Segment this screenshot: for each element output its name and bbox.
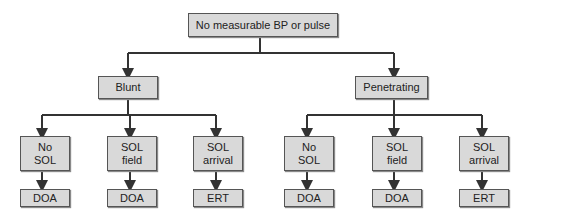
outcome-label: ERT: [207, 192, 229, 205]
node-line1: No: [38, 141, 52, 154]
node-line1: SOL: [386, 141, 408, 154]
outcome-label: ERT: [473, 192, 495, 205]
outcome-blunt-no-sol: DOA: [20, 189, 70, 207]
outcome-blunt-sol-arrival: ERT: [193, 189, 243, 207]
outcome-penetrating-no-sol: DOA: [284, 189, 334, 207]
penetrating-sol-field-node: SOL field: [372, 136, 422, 171]
branch-penetrating: Penetrating: [355, 76, 428, 99]
outcome-label: DOA: [385, 192, 409, 205]
outcome-penetrating-sol-field: DOA: [372, 189, 422, 207]
blunt-sol-arrival-node: SOL arrival: [193, 136, 243, 171]
root-node: No measurable BP or pulse: [188, 13, 338, 37]
penetrating-sol-arrival-node: SOL arrival: [459, 136, 509, 171]
outcome-blunt-sol-field: DOA: [107, 189, 157, 207]
node-line2: arrival: [203, 154, 233, 167]
outcome-label: DOA: [297, 192, 321, 205]
outcome-penetrating-sol-arrival: ERT: [459, 189, 509, 207]
node-line2: SOL: [34, 154, 56, 167]
node-line2: field: [387, 154, 407, 167]
node-line2: SOL: [298, 154, 320, 167]
root-label: No measurable BP or pulse: [196, 19, 330, 32]
outcome-label: DOA: [120, 192, 144, 205]
node-line1: SOL: [121, 141, 143, 154]
node-line2: arrival: [469, 154, 499, 167]
branch-blunt: Blunt: [98, 76, 158, 99]
node-line1: SOL: [207, 141, 229, 154]
blunt-no-sol-node: No SOL: [20, 136, 70, 171]
outcome-label: DOA: [33, 192, 57, 205]
node-line2: field: [122, 154, 142, 167]
node-line1: No: [302, 141, 316, 154]
blunt-sol-field-node: SOL field: [107, 136, 157, 171]
branch-label: Penetrating: [363, 81, 419, 94]
node-line1: SOL: [473, 141, 495, 154]
branch-label: Blunt: [115, 81, 140, 94]
penetrating-no-sol-node: No SOL: [284, 136, 334, 171]
